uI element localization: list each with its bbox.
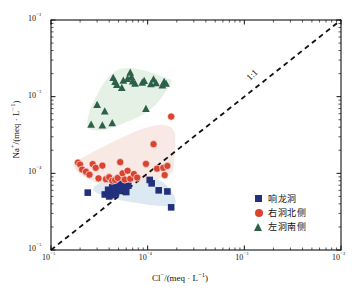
x-tick-label: 10⁻⁵ <box>42 254 55 262</box>
x-tick-label: 10⁻³ <box>235 254 248 262</box>
data-point-circle <box>164 162 171 169</box>
legend-item[interactable]: 右洞北侧 <box>254 207 306 218</box>
legend-item-label: 响龙洞 <box>268 192 297 205</box>
data-point-circle <box>150 141 157 148</box>
x-tick-label: 10⁻⁴ <box>139 254 152 262</box>
legend-circle-icon <box>254 208 263 217</box>
scatter-plot-figure: 1:1 10⁻⁵10⁻⁴10⁻³10⁻² 10⁻⁵10⁻⁴10⁻³10⁻² Cl… <box>0 0 360 298</box>
reference-line-label: 1:1 <box>244 67 259 82</box>
y-tick-label: 10⁻⁴ <box>28 168 41 176</box>
legend-item[interactable]: 左洞南侧 <box>254 221 306 232</box>
data-point-square <box>84 189 91 196</box>
data-point-square <box>125 182 132 189</box>
data-point-circle <box>99 162 106 169</box>
legend-item[interactable]: 响龙洞 <box>254 193 306 204</box>
y-tick-label: 10⁻⁵ <box>28 245 41 253</box>
y-tick-label: 10⁻² <box>28 15 41 23</box>
data-point-circle <box>168 113 175 120</box>
legend-triangle-icon <box>254 222 263 231</box>
legend-square-icon <box>254 194 263 203</box>
y-axis-title: Na+/(meq · L−1) <box>12 70 21 190</box>
x-axis-title: Cl−/(meq · L−1) <box>0 274 360 283</box>
data-point-circle <box>161 171 168 178</box>
data-point-circle <box>92 164 99 171</box>
x-tick-label: 10⁻² <box>332 254 345 262</box>
data-point-circle <box>117 159 124 166</box>
data-point-square <box>164 188 171 195</box>
legend-item-label: 右洞北侧 <box>268 206 306 219</box>
data-point-square <box>168 204 175 211</box>
data-point-circle <box>134 174 141 181</box>
data-point-circle <box>142 160 149 167</box>
data-point-circle <box>95 175 102 182</box>
legend: 响龙洞右洞北侧左洞南侧 <box>254 193 306 232</box>
data-point-square <box>148 180 155 187</box>
data-point-square <box>123 189 130 196</box>
data-point-circle <box>86 171 93 178</box>
data-point-square <box>155 187 162 194</box>
legend-item-label: 左洞南侧 <box>268 220 306 233</box>
y-tick-label: 10⁻³ <box>28 92 41 100</box>
